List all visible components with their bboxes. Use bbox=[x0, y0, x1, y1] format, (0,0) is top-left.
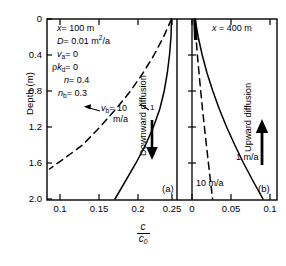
x-tick-a-1: 0.15 bbox=[82, 203, 116, 214]
y-tick-marks bbox=[47, 19, 52, 199]
leader-arrow-panel-a-dashed bbox=[84, 104, 100, 111]
x-tick-b-1: 0.05 bbox=[214, 203, 248, 214]
curve-label-panel-a-dashed-unit: m/a bbox=[113, 114, 128, 124]
x-axis-label-denominator: c0 bbox=[139, 233, 148, 244]
x-tick-marks-panel-b bbox=[192, 19, 270, 200]
figure-container: Depth (m) 0 0.4 0.8 1.2 1.6 2.0 bbox=[0, 0, 286, 266]
param-va: va= 0 bbox=[57, 49, 78, 59]
x-tick-a-0: 0.1 bbox=[43, 203, 77, 214]
panel-label-a: (a) bbox=[162, 183, 174, 194]
panel-label-b: (b) bbox=[258, 183, 270, 194]
x-tick-b-0: 0 bbox=[175, 203, 209, 214]
upward-diffusion-label: Upward diffusion bbox=[243, 83, 253, 152]
param-rho-kd: ρkd= 0 bbox=[52, 62, 78, 72]
param-nb: nb= 0.3 bbox=[58, 88, 87, 98]
downward-diffusion-label: Downward diffusion bbox=[138, 75, 148, 156]
curve-panel-b-dashed-10ma bbox=[195, 19, 213, 199]
param-n: n= 0.4 bbox=[64, 75, 89, 85]
curve-label-panel-a-solid: 1 bbox=[150, 103, 154, 112]
curve-label-panel-a-dashed: vb= 10 bbox=[101, 103, 127, 113]
x-tick-a-2: 0.2 bbox=[121, 203, 155, 214]
curve-label-panel-b-solid: 1 m/a bbox=[236, 152, 259, 162]
x-tick-b-2: 0.1 bbox=[253, 203, 286, 214]
panel-b-title: x = 400 m bbox=[212, 23, 252, 33]
param-x: x= 100 m bbox=[57, 23, 94, 33]
curve-label-panel-b-dashed: 10 m/a bbox=[196, 178, 224, 188]
x-axis-label-numerator: c bbox=[141, 221, 146, 232]
x-axis-label: c c0 bbox=[125, 222, 161, 244]
param-D: D= 0.01 m2/a bbox=[57, 36, 110, 46]
